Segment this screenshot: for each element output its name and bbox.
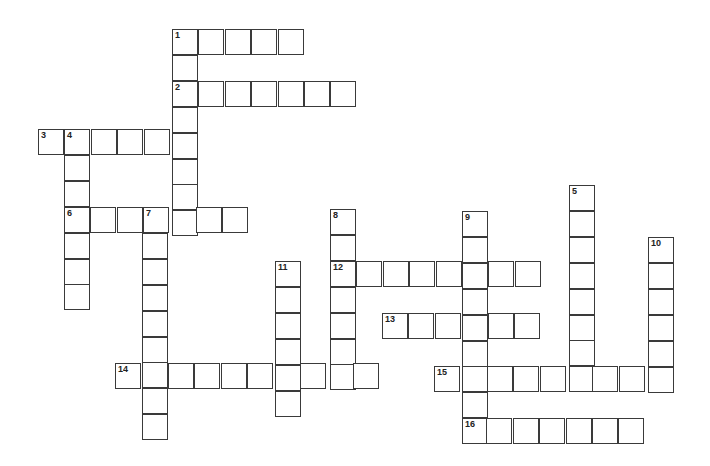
crossword-cell[interactable]: 10 — [648, 237, 674, 263]
crossword-cell[interactable] — [513, 366, 539, 392]
crossword-cell[interactable]: 3 — [38, 129, 64, 155]
cell-letter-input[interactable] — [463, 316, 487, 340]
cell-letter-input[interactable] — [649, 316, 673, 340]
crossword-cell[interactable] — [514, 313, 540, 339]
crossword-cell[interactable]: 6 — [64, 207, 90, 233]
crossword-cell[interactable] — [462, 341, 488, 367]
cell-letter-input[interactable] — [65, 285, 89, 309]
cell-letter-input[interactable] — [143, 286, 167, 310]
crossword-cell[interactable] — [172, 133, 198, 159]
crossword-cell[interactable] — [64, 155, 90, 181]
crossword-cell[interactable] — [172, 210, 198, 236]
cell-letter-input[interactable] — [570, 264, 594, 288]
cell-letter-input[interactable] — [199, 30, 223, 54]
crossword-cell[interactable]: 2 — [172, 81, 198, 107]
cell-letter-input[interactable] — [301, 364, 325, 388]
crossword-cell[interactable] — [569, 237, 595, 263]
cell-letter-input[interactable] — [143, 363, 167, 387]
cell-letter-input[interactable] — [92, 130, 116, 154]
cell-letter-input[interactable] — [222, 364, 246, 388]
crossword-cell[interactable] — [462, 289, 488, 315]
cell-letter-input[interactable] — [252, 30, 276, 54]
crossword-cell[interactable] — [275, 365, 301, 391]
cell-letter-input[interactable] — [143, 312, 167, 336]
crossword-cell[interactable] — [91, 129, 117, 155]
cell-letter-input[interactable] — [276, 262, 300, 286]
crossword-cell[interactable] — [569, 340, 595, 366]
cell-letter-input[interactable] — [383, 314, 407, 338]
cell-letter-input[interactable] — [463, 342, 487, 366]
cell-letter-input[interactable] — [248, 364, 272, 388]
cell-letter-input[interactable] — [570, 367, 594, 391]
crossword-cell[interactable] — [648, 315, 674, 341]
cell-letter-input[interactable] — [276, 366, 300, 390]
cell-letter-input[interactable] — [649, 264, 673, 288]
cell-letter-input[interactable] — [331, 262, 355, 286]
cell-letter-input[interactable] — [489, 314, 513, 338]
crossword-cell[interactable]: 13 — [382, 313, 408, 339]
cell-letter-input[interactable] — [226, 30, 250, 54]
crossword-cell[interactable]: 7 — [143, 207, 169, 233]
cell-letter-input[interactable] — [463, 264, 487, 288]
cell-letter-input[interactable] — [279, 82, 303, 106]
crossword-cell[interactable] — [408, 313, 434, 339]
cell-letter-input[interactable] — [252, 82, 276, 106]
cell-letter-input[interactable] — [276, 288, 300, 312]
cell-letter-input[interactable] — [144, 208, 168, 232]
crossword-cell[interactable] — [225, 29, 251, 55]
cell-letter-input[interactable] — [570, 341, 594, 365]
cell-letter-input[interactable] — [279, 30, 303, 54]
cell-letter-input[interactable] — [410, 262, 434, 286]
cell-letter-input[interactable] — [620, 367, 644, 391]
cell-letter-input[interactable] — [487, 419, 511, 443]
cell-letter-input[interactable] — [570, 238, 594, 262]
cell-letter-input[interactable] — [226, 82, 250, 106]
cell-letter-input[interactable] — [169, 364, 193, 388]
cell-letter-input[interactable] — [173, 134, 197, 158]
crossword-cell[interactable]: 15 — [434, 366, 460, 392]
crossword-cell[interactable] — [648, 367, 674, 393]
crossword-cell[interactable] — [117, 207, 143, 233]
crossword-cell[interactable] — [168, 363, 194, 389]
cell-letter-input[interactable] — [143, 389, 167, 413]
crossword-cell[interactable] — [142, 388, 168, 414]
crossword-cell[interactable] — [142, 414, 168, 440]
cell-letter-input[interactable] — [436, 314, 460, 338]
crossword-cell[interactable] — [198, 81, 224, 107]
cell-letter-input[interactable] — [409, 314, 433, 338]
crossword-cell[interactable] — [488, 261, 514, 287]
cell-letter-input[interactable] — [489, 262, 513, 286]
cell-letter-input[interactable] — [514, 419, 538, 443]
crossword-cell[interactable] — [488, 313, 514, 339]
cell-letter-input[interactable] — [145, 130, 169, 154]
crossword-cell[interactable] — [142, 362, 168, 388]
cell-letter-input[interactable] — [649, 238, 673, 262]
crossword-cell[interactable] — [569, 263, 595, 289]
crossword-cell[interactable] — [142, 337, 168, 363]
cell-letter-input[interactable] — [331, 288, 355, 312]
cell-letter-input[interactable] — [541, 367, 565, 391]
cell-letter-input[interactable] — [488, 367, 512, 391]
crossword-cell[interactable] — [330, 313, 356, 339]
crossword-cell[interactable] — [569, 289, 595, 315]
cell-letter-input[interactable] — [65, 260, 89, 284]
cell-letter-input[interactable] — [331, 82, 355, 106]
crossword-cell[interactable]: 14 — [115, 363, 141, 389]
cell-letter-input[interactable] — [305, 82, 329, 106]
crossword-cell[interactable] — [540, 366, 566, 392]
cell-letter-input[interactable] — [619, 419, 643, 443]
cell-letter-input[interactable] — [276, 314, 300, 338]
crossword-cell[interactable] — [275, 339, 301, 365]
crossword-cell[interactable] — [462, 366, 488, 392]
crossword-cell[interactable] — [144, 129, 170, 155]
crossword-cell[interactable] — [117, 129, 143, 155]
crossword-cell[interactable]: 1 — [172, 29, 198, 55]
crossword-cell[interactable] — [172, 55, 198, 81]
crossword-cell[interactable] — [196, 207, 222, 233]
cell-letter-input[interactable] — [463, 238, 487, 262]
cell-letter-input[interactable] — [65, 156, 89, 180]
cell-letter-input[interactable] — [39, 130, 63, 154]
crossword-cell[interactable] — [356, 261, 382, 287]
crossword-cell[interactable] — [648, 289, 674, 315]
crossword-cell[interactable] — [648, 341, 674, 367]
